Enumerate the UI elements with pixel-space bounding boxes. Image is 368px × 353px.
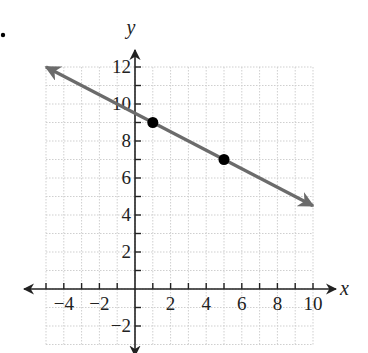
x-tick-label: 10 <box>304 293 323 314</box>
y-tick-label: 12 <box>112 56 131 77</box>
y-axis-label: y <box>125 16 136 39</box>
line-graph: −4−2246810−224681012xy <box>0 0 368 353</box>
x-tick-label: −2 <box>89 293 109 314</box>
y-tick-label: 4 <box>122 204 132 225</box>
x-axis-label: x <box>339 277 349 299</box>
y-tick-label: 8 <box>122 130 132 151</box>
data-point <box>147 117 158 128</box>
x-tick-label: 8 <box>273 293 283 314</box>
x-tick-label: 4 <box>201 293 211 314</box>
y-tick-label: 2 <box>122 241 132 262</box>
y-tick-label: −2 <box>111 315 131 336</box>
x-tick-label: 2 <box>166 293 176 314</box>
x-tick-label: −4 <box>54 293 75 314</box>
plotted-line <box>46 67 313 206</box>
problem-marker <box>1 33 5 37</box>
data-point <box>219 154 230 165</box>
y-tick-label: 6 <box>122 167 132 188</box>
x-tick-label: 6 <box>237 293 247 314</box>
